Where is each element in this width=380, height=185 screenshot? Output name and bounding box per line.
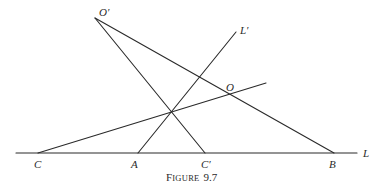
caption-number: 9.7 (204, 171, 218, 183)
label-L-prime: L′ (239, 24, 249, 36)
label-L: L (362, 147, 369, 159)
line-O-prime-C-prime (95, 18, 205, 153)
label-O: O (226, 81, 234, 93)
label-A: A (130, 158, 138, 170)
figure-caption: FIGURE9.7 (166, 171, 218, 183)
geometry-figure: O′ L′ O C A C′ B L FIGURE9.7 (0, 0, 380, 185)
caption-small-caps: IGURE (172, 173, 199, 183)
label-B: B (329, 158, 336, 170)
label-O-prime: O′ (99, 6, 110, 18)
label-C: C (34, 158, 42, 170)
line-O-prime-B (95, 18, 334, 153)
line-C-O (38, 83, 266, 153)
label-C-prime: C′ (201, 158, 211, 170)
